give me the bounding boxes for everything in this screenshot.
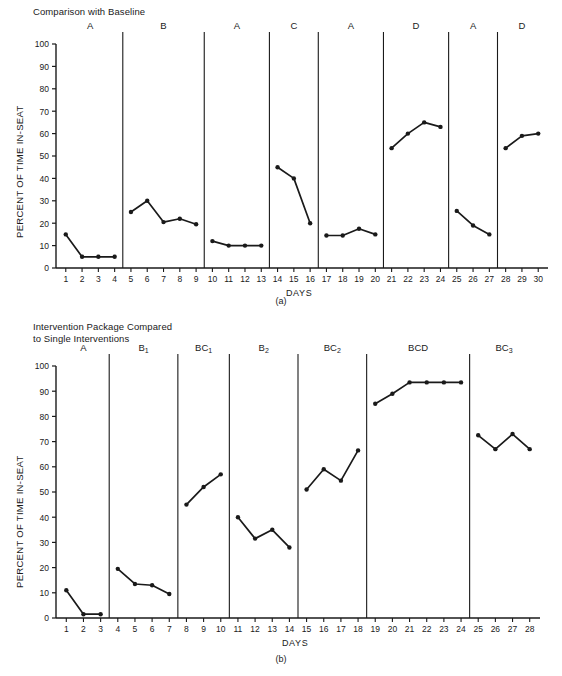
figure-a: Comparison with Baseline 010203040506070…: [0, 0, 562, 318]
data-point: [161, 220, 165, 224]
chart-a-plot: 0102030405060708090100123456789101112131…: [0, 28, 562, 298]
data-point: [236, 515, 240, 519]
y-tick-label: 100: [35, 39, 49, 49]
series-line: [238, 517, 289, 547]
data-point: [322, 467, 326, 471]
series-line: [457, 211, 490, 235]
data-point: [219, 472, 223, 476]
x-tick-label: 22: [422, 624, 432, 634]
data-point: [133, 582, 137, 586]
series-line: [212, 241, 261, 245]
x-tick-label: 18: [338, 274, 348, 284]
y-tick-label: 20: [40, 563, 50, 573]
phase-label: A: [348, 20, 354, 31]
y-tick-label: 10: [40, 588, 50, 598]
data-point: [493, 447, 497, 451]
series-line: [278, 167, 311, 223]
phase-label: C: [290, 20, 297, 31]
x-tick-label: 24: [456, 624, 466, 634]
y-tick-label: 80: [40, 84, 50, 94]
data-point: [81, 612, 85, 616]
chart-a-svg: 0102030405060708090100123456789101112131…: [0, 28, 562, 298]
data-point: [425, 380, 429, 384]
x-tick-label: 21: [405, 624, 415, 634]
data-point: [324, 233, 328, 237]
x-tick-label: 27: [485, 274, 495, 284]
x-tick-label: 5: [129, 274, 134, 284]
x-tick-label: 18: [353, 624, 363, 634]
phase-label: A: [470, 20, 476, 31]
data-point: [253, 536, 257, 540]
x-axis-title: DAYS: [282, 638, 308, 648]
x-tick-label: 24: [436, 274, 446, 284]
chart-b-svg: 0102030405060708090100123456789101112131…: [0, 348, 562, 648]
data-point: [64, 588, 68, 592]
series-line: [118, 569, 169, 594]
data-point: [455, 209, 459, 213]
figure-a-caption: (a): [261, 296, 301, 306]
data-point: [201, 485, 205, 489]
x-tick-label: 4: [115, 624, 120, 634]
data-point: [80, 255, 84, 259]
phase-label: D: [518, 20, 525, 31]
x-tick-label: 11: [234, 624, 243, 634]
phase-label: B: [160, 20, 166, 31]
x-tick-label: 5: [133, 624, 138, 634]
x-tick-label: 28: [525, 624, 535, 634]
data-point: [339, 478, 343, 482]
data-point: [406, 131, 410, 135]
series-line: [326, 229, 375, 236]
x-tick-label: 20: [371, 274, 381, 284]
x-tick-label: 1: [63, 274, 68, 284]
figure-b-title: Intervention Package Compared to Single …: [33, 321, 172, 344]
x-tick-label: 26: [491, 624, 501, 634]
x-tick-label: 21: [387, 274, 397, 284]
x-tick-label: 9: [194, 274, 199, 284]
data-point: [96, 255, 100, 259]
data-point: [129, 210, 133, 214]
x-tick-label: 25: [473, 624, 483, 634]
series-line: [392, 122, 441, 148]
y-tick-label: 20: [40, 219, 50, 229]
data-point: [536, 131, 540, 135]
x-tick-label: 20: [388, 624, 398, 634]
x-tick-label: 8: [184, 624, 189, 634]
x-tick-label: 6: [145, 274, 150, 284]
x-tick-label: 15: [302, 624, 312, 634]
data-point: [226, 243, 230, 247]
x-tick-label: 15: [289, 274, 299, 284]
data-point: [259, 243, 263, 247]
x-tick-label: 30: [533, 274, 543, 284]
y-tick-label: 30: [40, 538, 50, 548]
data-point: [112, 255, 116, 259]
x-tick-label: 23: [439, 624, 449, 634]
x-tick-label: 14: [273, 274, 283, 284]
y-tick-label: 40: [40, 174, 50, 184]
x-tick-label: 10: [216, 624, 226, 634]
data-point: [308, 221, 312, 225]
x-tick-label: 2: [81, 624, 86, 634]
data-point: [373, 402, 377, 406]
data-point: [304, 487, 308, 491]
data-point: [116, 567, 120, 571]
y-tick-label: 90: [40, 387, 50, 397]
phase-label: A: [87, 20, 93, 31]
x-tick-label: 29: [517, 274, 527, 284]
phase-label: BC2: [324, 342, 341, 353]
data-point: [145, 199, 149, 203]
x-tick-label: 12: [250, 624, 260, 634]
x-tick-label: 10: [208, 274, 218, 284]
data-point: [459, 380, 463, 384]
data-point: [150, 583, 154, 587]
data-point: [422, 120, 426, 124]
x-tick-label: 4: [112, 274, 117, 284]
x-tick-label: 17: [336, 624, 346, 634]
x-tick-label: 2: [80, 274, 85, 284]
y-tick-label: 100: [35, 361, 49, 371]
data-point: [510, 432, 514, 436]
phase-label: BCD: [408, 342, 428, 353]
x-tick-label: 26: [468, 274, 478, 284]
data-point: [178, 217, 182, 221]
x-tick-label: 28: [501, 274, 511, 284]
x-tick-label: 14: [285, 624, 295, 634]
